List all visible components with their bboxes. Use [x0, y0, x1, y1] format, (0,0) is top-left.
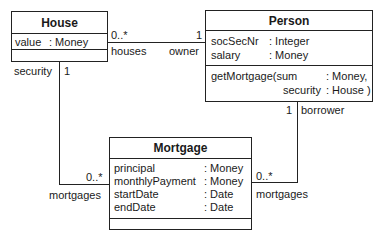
attr-type: : Date — [204, 201, 233, 213]
class-person-name: Person — [206, 11, 372, 31]
attr-name: monthlyPayment — [114, 175, 196, 187]
attr-type: : Date — [204, 188, 233, 200]
attr-type: : Money — [269, 49, 308, 61]
multiplicity-houses: 0..* — [111, 29, 128, 41]
multiplicity-owner: 1 — [196, 29, 202, 41]
operation-param-type: : Money, — [326, 70, 367, 82]
class-mortgage-attributes: principal : Money monthlyPayment : Money… — [110, 159, 251, 219]
multiplicity-borrower: 1 — [286, 104, 292, 116]
multiplicity-security: 1 — [64, 65, 70, 77]
class-house[interactable]: House value : Money — [11, 11, 108, 62]
role-person-mortgages: mortgages — [256, 188, 308, 200]
association-person-mortgage-vertical — [297, 101, 298, 183]
multiplicity-house-mortgages: 0..* — [86, 171, 103, 183]
attr-name: value — [15, 36, 41, 48]
class-house-operations — [12, 50, 107, 61]
class-house-name: House — [12, 12, 107, 34]
role-owner: owner — [169, 45, 199, 57]
attr-type: : Money — [49, 36, 88, 48]
attr-name: startDate — [114, 188, 159, 200]
class-mortgage-operations — [110, 219, 251, 229]
role-houses: houses — [111, 45, 146, 57]
role-borrower: borrower — [301, 104, 344, 116]
association-house-person-line — [107, 42, 205, 43]
attr-type: : Integer — [269, 35, 309, 47]
association-house-mortgage-vertical — [59, 61, 60, 185]
class-person[interactable]: Person socSecNr : Integer salary : Money… — [205, 10, 373, 102]
operation-param-name: security — [283, 84, 321, 96]
class-person-attributes: socSecNr : Integer salary : Money — [206, 31, 372, 66]
role-house-mortgages: mortgages — [49, 189, 101, 201]
class-mortgage[interactable]: Mortgage principal : Money monthlyPaymen… — [109, 137, 252, 230]
attr-name: principal — [114, 162, 155, 174]
association-person-mortgage-horizontal — [251, 182, 298, 183]
association-house-mortgage-horizontal — [59, 184, 110, 185]
attr-name: socSecNr — [211, 35, 259, 47]
attr-name: salary — [211, 49, 240, 61]
attr-name: endDate — [114, 201, 156, 213]
class-person-operations: getMortgage(sum : Money, security : Hous… — [206, 66, 372, 101]
multiplicity-person-mortgages: 0..* — [256, 170, 273, 182]
class-house-attributes: value : Money — [12, 34, 107, 50]
attr-type: : Money — [204, 175, 243, 187]
attr-type: : Money — [204, 162, 243, 174]
operation-param-type: : House ) — [326, 84, 371, 96]
role-security: security — [14, 65, 52, 77]
class-mortgage-name: Mortgage — [110, 138, 251, 159]
operation-name: getMortgage(sum — [211, 70, 297, 82]
